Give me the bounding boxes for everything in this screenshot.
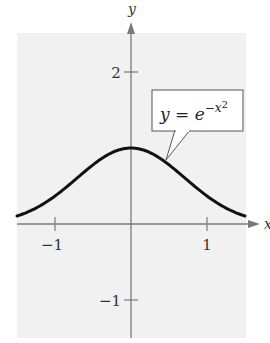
gaussian-chart: −1 1 x 2 −1 y y = e−x2 bbox=[0, 0, 270, 343]
x-tick-label-1: 1 bbox=[202, 236, 212, 254]
x-tick-label-neg1: −1 bbox=[41, 236, 63, 254]
x-axis-arrow-icon bbox=[248, 220, 260, 228]
y-axis-arrow-icon bbox=[127, 22, 135, 34]
y-tick-label-2: 2 bbox=[111, 64, 121, 82]
x-axis-label: x bbox=[264, 216, 270, 232]
y-axis-label: y bbox=[127, 1, 137, 17]
y-tick-label-neg1: −1 bbox=[99, 292, 121, 310]
